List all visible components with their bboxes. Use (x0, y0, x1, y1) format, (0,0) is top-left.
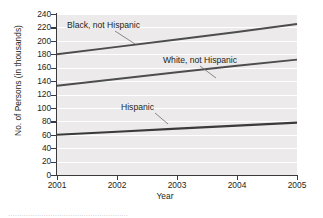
y-tick-mark (51, 121, 57, 122)
y-tick-mark (51, 162, 57, 163)
y-tick-mark (51, 41, 57, 42)
annotation-leader-line (155, 113, 168, 124)
y-tick-mark (51, 54, 57, 55)
y-tick-mark (51, 135, 57, 136)
series-annotation-white: White, not Hispanic (163, 56, 237, 65)
x-tick-mark (237, 175, 238, 180)
x-tick-mark (297, 175, 298, 180)
y-tick-mark (51, 148, 57, 149)
series-lines (0, 0, 323, 218)
x-tick-mark (177, 175, 178, 180)
series-annotation-hispanic: Hispanic (121, 103, 154, 112)
y-tick-mark (51, 81, 57, 82)
x-tick-mark (117, 175, 118, 180)
series-line (57, 123, 297, 135)
x-tick-mark (57, 175, 58, 180)
caption-sliver: ........................................… (8, 209, 238, 218)
y-tick-mark (51, 68, 57, 69)
chart-figure: 020406080100120140160180200220240 200120… (0, 0, 323, 218)
y-tick-mark (51, 14, 57, 15)
annotation-leader-line (115, 31, 135, 44)
y-tick-mark (51, 108, 57, 109)
series-annotation-black: Black, not Hispanic (67, 21, 140, 30)
y-tick-mark (51, 95, 57, 96)
y-tick-mark (51, 27, 57, 28)
